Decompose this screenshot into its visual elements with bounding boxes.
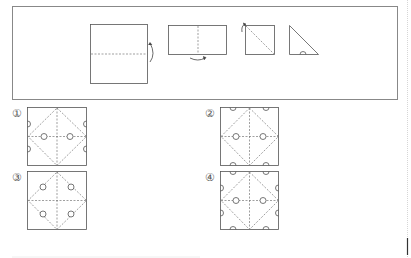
option-2-figure[interactable] — [221, 108, 279, 166]
option-3-label[interactable]: ③ — [12, 172, 22, 183]
option-1-label[interactable]: ① — [12, 108, 22, 119]
option-4-figure[interactable] — [221, 172, 279, 230]
fold-arrow-icon — [190, 58, 205, 60]
problem-frame — [13, 7, 398, 100]
step-3-square — [242, 23, 275, 55]
step-1-square — [91, 25, 154, 84]
semicircle-cut-icon — [300, 52, 306, 55]
step-4-triangle — [290, 26, 319, 55]
option-4-label[interactable]: ④ — [205, 172, 215, 183]
step-2-rectangle — [169, 26, 227, 61]
option-2-label[interactable]: ② — [205, 108, 215, 119]
diagram-canvas — [0, 0, 411, 258]
fold-arrow-icon — [150, 43, 153, 62]
option-1-figure[interactable] — [28, 108, 87, 166]
option-3-figure[interactable] — [28, 172, 87, 230]
